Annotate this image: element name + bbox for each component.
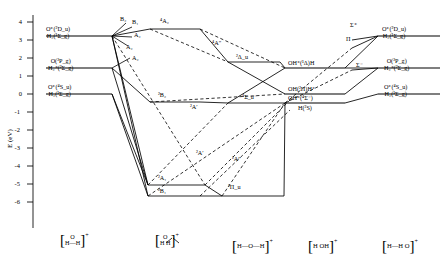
structure-5-formula: H—H O: [387, 242, 410, 249]
ytick-0: 0: [8, 90, 22, 97]
structure-3: [H—O—H]+: [232, 238, 273, 255]
curve-2B2-to-4Sigma: [200, 102, 228, 103]
mid-product-3: OH⁺(⁴Σ⁻): [288, 95, 313, 101]
fan-label-B1: B₁: [132, 19, 138, 25]
state-2Ap-2: ²A′: [196, 150, 204, 156]
ytick-4: 4: [8, 18, 22, 25]
dashed-cross-1: [112, 36, 205, 185]
reactant-level-1: O⁺(²D_u) H₂(¹Σ_g): [46, 26, 70, 40]
reactant-1-bottom: H₂(¹Σ_g): [46, 33, 70, 40]
mid-product-4: H(²S): [298, 105, 312, 111]
structure-3-formula: H—O—H: [237, 242, 264, 249]
curve-cross-b: [112, 36, 148, 196]
product-1-bottom: H₂(¹Σ_g): [382, 33, 406, 40]
fan-label-A2-1: A₂: [134, 32, 141, 38]
product-3-bottom: H₂(¹Σ_g): [384, 91, 407, 98]
reactant-level-3: O⁺(⁴S_u) H₂(¹Σ_g): [48, 84, 71, 98]
ytick-m5: -5: [6, 180, 20, 187]
ytick-2: 2: [8, 54, 22, 61]
correlation-diagram: 4 3 2 1 0 -1 -2 -3 -4 -5 -6 E (eV) O⁺(²D…: [0, 0, 444, 265]
fan-left-5: [112, 58, 130, 68]
mid-product-2: OH(²Π)H⁺: [288, 86, 315, 92]
structure-5: [H—H O]+: [382, 238, 418, 255]
state-2A1: ²A₁: [158, 175, 166, 181]
reactant-level-2: O(³P_g) H₂⁺(²Σ_g): [48, 58, 73, 72]
structure-5-charge: +: [415, 238, 418, 244]
fan-label-A2-3: A₂: [132, 55, 139, 61]
dashed-lower-1: [200, 110, 290, 196]
structure-3-charge: +: [269, 238, 272, 244]
structure-2-formula: OH H: [160, 234, 170, 247]
fan-label-Pi: Π: [346, 36, 350, 42]
fan-label-A2-2: A₂: [126, 44, 133, 50]
product-2-bottom: H₂⁺(²Σ_g): [384, 65, 409, 72]
product-level-2: O(³P_g) H₂⁺(²Σ_g): [384, 58, 409, 72]
fan-label-Sigma-minus: Σ⁻: [356, 62, 363, 68]
ytick-m6: -6: [6, 198, 20, 205]
dashed-2Ap-2: [148, 103, 285, 196]
product-level-3: O⁺(⁴S_u) H₂(¹Σ_g): [384, 84, 407, 98]
fan-left-3: [112, 36, 132, 37]
curve-out-2: [345, 68, 378, 94]
state-4App: ⁴A″: [212, 40, 221, 46]
product-level-1: O⁺(²D_u) H₂(¹Σ_g): [382, 26, 406, 40]
state-2App: ²A″: [232, 156, 241, 162]
fan-label-Sigma-plus: Σ⁺: [350, 22, 357, 28]
ytick-3: 3: [8, 36, 22, 43]
fan-label-B2: B₂: [120, 16, 126, 22]
fan-left-2: [112, 27, 132, 36]
state-2Pi-u: ²Π_u: [228, 184, 241, 190]
state-2Ap-1: ²A′: [190, 104, 198, 110]
reactant-2-bottom: H₂⁺(²Σ_g): [48, 65, 73, 72]
structure-1: [OH—H]+: [60, 232, 89, 249]
ytick-1: 1: [8, 72, 22, 79]
state-2Delta-u: ²Δ_u: [236, 54, 248, 60]
curve-cross-d: [228, 62, 285, 94]
state-4Sigma-u: ⁴Σ_u⁻: [242, 94, 257, 100]
dashed-2App-1: [150, 94, 285, 102]
structure-4: [H OH]+: [308, 238, 337, 255]
ytick-m4: -4: [6, 162, 20, 169]
curve-2B2-in: [112, 68, 150, 102]
structure-2: [OH H]+: [155, 232, 179, 249]
curve-out-3: [345, 94, 378, 103]
state-2B1: ²B₁: [158, 188, 166, 194]
structure-1-charge: +: [85, 232, 88, 238]
ytick-m1: -1: [6, 108, 20, 115]
structure-4-charge: +: [334, 238, 337, 244]
structure-2-charge: +: [175, 232, 178, 238]
curve-2A1-to-2Pi: [205, 185, 222, 196]
y-axis-label: E (eV): [6, 129, 14, 148]
reactant-3-bottom: H₂(¹Σ_g): [48, 91, 71, 98]
curve-2Pi-to-prod: [284, 103, 285, 196]
mid-product-1: OH⁺(¹Δ)H: [288, 60, 314, 66]
dashed-2Ap-1: [148, 103, 228, 185]
state-4A2: ⁴A₂: [160, 18, 169, 24]
curve-4A2-in: [112, 29, 150, 36]
state-2B2: ²B₂: [158, 92, 166, 98]
dashed-lower-2: [205, 100, 290, 185]
structure-1-formula: OH—H: [65, 234, 80, 247]
structure-4-formula: H OH: [313, 242, 329, 249]
